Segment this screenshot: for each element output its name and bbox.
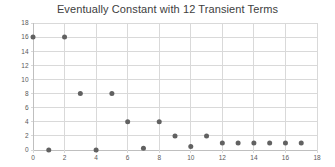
y-axis-labels: 024681012141618	[21, 19, 29, 153]
x-tick-label: 14	[250, 154, 258, 161]
data-point	[62, 35, 67, 40]
x-tick-label: 2	[63, 154, 67, 161]
data-point	[109, 91, 114, 96]
data-point	[220, 140, 225, 145]
x-tick-label: 16	[282, 154, 290, 161]
data-point	[46, 148, 51, 153]
axis-tick-marks	[31, 23, 318, 153]
y-tick-label: 12	[21, 62, 29, 69]
data-point	[299, 140, 304, 145]
data-point	[94, 148, 99, 153]
x-tick-label: 12	[219, 154, 227, 161]
y-tick-label: 8	[25, 90, 29, 97]
x-tick-label: 0	[31, 154, 35, 161]
axis-lines	[33, 23, 317, 150]
y-tick-label: 14	[21, 48, 29, 55]
data-point	[173, 133, 178, 138]
data-point	[31, 35, 36, 40]
x-axis-labels: 024681012141618	[31, 154, 321, 161]
y-tick-label: 6	[25, 104, 29, 111]
scatter-plot: 024681012141618 024681012141618	[0, 0, 335, 167]
x-tick-label: 18	[313, 154, 321, 161]
data-point	[141, 146, 146, 151]
data-point	[251, 140, 256, 145]
x-tick-label: 10	[187, 154, 195, 161]
y-tick-label: 4	[25, 118, 29, 125]
data-point	[267, 140, 272, 145]
gridlines	[33, 23, 317, 150]
data-point	[188, 144, 193, 149]
data-point	[204, 133, 209, 138]
data-point	[236, 140, 241, 145]
data-point	[125, 119, 130, 124]
scatter-chart: Eventually Constant with 12 Transient Te…	[0, 0, 335, 167]
x-tick-label: 6	[126, 154, 130, 161]
y-tick-label: 16	[21, 33, 29, 40]
x-tick-label: 8	[157, 154, 161, 161]
y-tick-label: 10	[21, 76, 29, 83]
y-tick-label: 18	[21, 19, 29, 26]
data-point	[283, 140, 288, 145]
data-point	[78, 91, 83, 96]
y-tick-label: 2	[25, 132, 29, 139]
x-tick-label: 4	[94, 154, 98, 161]
data-point	[157, 119, 162, 124]
y-tick-label: 0	[25, 146, 29, 153]
